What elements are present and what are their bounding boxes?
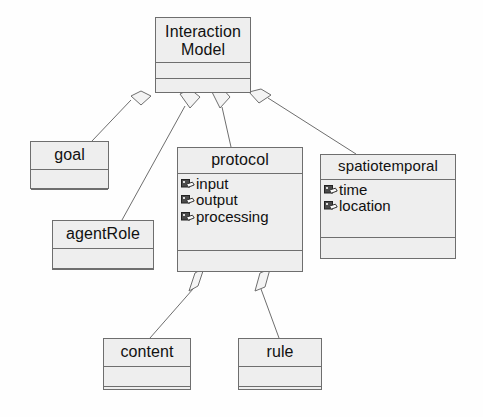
class-name-interaction-model: Interaction Model bbox=[156, 18, 250, 63]
attribute-row: time bbox=[324, 182, 452, 198]
uml-class-content[interactable]: content bbox=[103, 338, 191, 390]
class-attributes-rule bbox=[239, 367, 321, 387]
class-attributes-goal bbox=[31, 170, 108, 190]
aggregation-diamond-spatiotemporal bbox=[249, 89, 271, 103]
aggregation-diamond-rule bbox=[255, 269, 270, 291]
class-operations-content bbox=[104, 387, 190, 404]
class-name-agent-role: agentRole bbox=[53, 221, 153, 249]
edge-interaction-model-goal bbox=[92, 100, 131, 141]
class-operations-rule bbox=[239, 387, 321, 404]
attribute-icon bbox=[181, 211, 195, 224]
class-name-spatiotemporal: spatiotemporal bbox=[321, 155, 455, 180]
attribute-label: input bbox=[196, 176, 229, 192]
uml-class-agent-role[interactable]: agentRole bbox=[52, 220, 154, 270]
uml-class-interaction-model[interactable]: Interaction Model bbox=[155, 17, 251, 93]
attribute-icon bbox=[181, 194, 195, 207]
uml-class-goal[interactable]: goal bbox=[30, 141, 109, 189]
uml-class-spatiotemporal[interactable]: spatiotemporal timelocation bbox=[320, 154, 456, 259]
class-attributes-agent-role bbox=[53, 249, 153, 269]
attribute-row: input bbox=[181, 176, 299, 192]
edge-interaction-model-spatiotemporal bbox=[268, 98, 356, 154]
diagram-canvas: Interaction Model goal agentRole protoco… bbox=[0, 0, 483, 417]
attribute-label: time bbox=[339, 182, 367, 198]
class-operations-goal bbox=[31, 190, 108, 207]
attribute-row: location bbox=[324, 198, 452, 214]
class-operations-agent-role bbox=[53, 269, 153, 286]
edge-protocol-content bbox=[150, 289, 193, 338]
class-name-protocol: protocol bbox=[178, 148, 302, 174]
attribute-row: processing bbox=[181, 209, 299, 225]
attribute-icon bbox=[324, 184, 338, 197]
aggregation-diamond-goal bbox=[131, 91, 151, 105]
class-attributes-interaction-model bbox=[156, 63, 250, 79]
class-attributes-protocol: inputoutputprocessing bbox=[178, 174, 302, 251]
uml-class-rule[interactable]: rule bbox=[238, 338, 322, 390]
uml-class-protocol[interactable]: protocol inputoutputprocessing bbox=[177, 147, 303, 272]
class-name-content: content bbox=[104, 339, 190, 367]
attribute-row: output bbox=[181, 192, 299, 208]
class-operations-interaction-model bbox=[156, 79, 250, 92]
class-attributes-content bbox=[104, 367, 190, 387]
attribute-label: output bbox=[196, 192, 238, 208]
attribute-icon bbox=[324, 200, 338, 213]
class-operations-protocol bbox=[178, 251, 302, 271]
attribute-label: location bbox=[339, 198, 391, 214]
class-operations-spatiotemporal bbox=[321, 238, 455, 258]
class-attributes-spatiotemporal: timelocation bbox=[321, 180, 455, 239]
class-name-goal: goal bbox=[31, 142, 108, 170]
attribute-label: processing bbox=[196, 209, 269, 225]
edge-interaction-model-protocol bbox=[222, 107, 231, 147]
class-name-rule: rule bbox=[239, 339, 321, 367]
attribute-icon bbox=[181, 178, 195, 191]
edge-protocol-rule bbox=[261, 289, 279, 338]
edge-interaction-model-agent-role bbox=[122, 106, 185, 220]
